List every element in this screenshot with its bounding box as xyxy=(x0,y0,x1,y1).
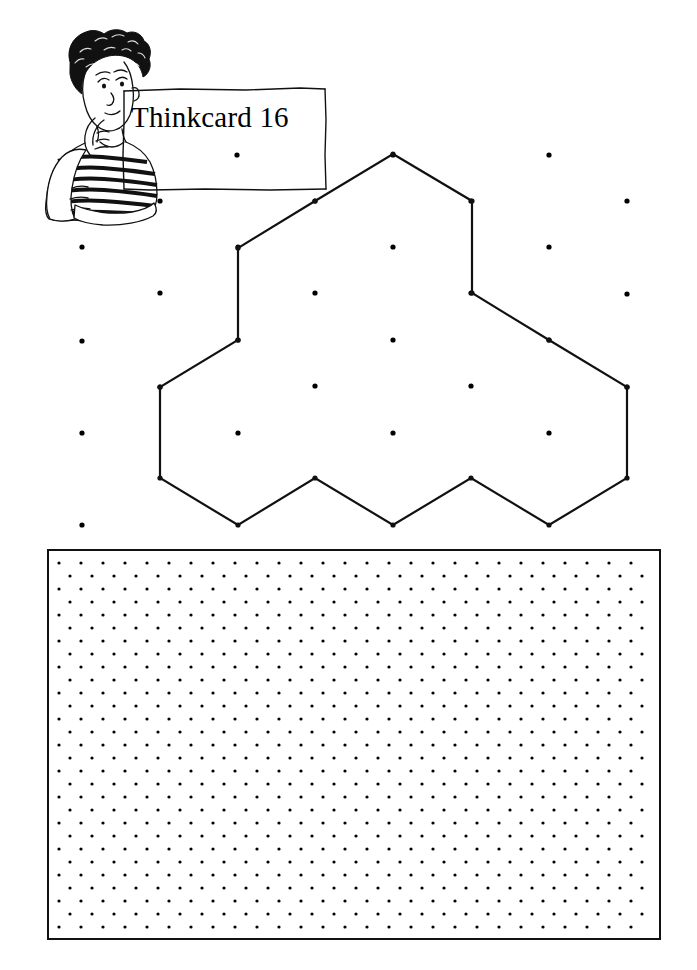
grid-dot xyxy=(618,626,621,629)
grid-dot xyxy=(343,613,346,616)
grid-dot xyxy=(464,912,467,915)
grid-dot xyxy=(431,795,434,798)
grid-dot xyxy=(387,561,390,564)
grid-dot xyxy=(376,626,379,629)
grid-dot xyxy=(497,639,500,642)
grid-dot xyxy=(497,717,500,720)
grid-dot xyxy=(310,782,313,785)
grid-dot xyxy=(519,639,522,642)
grid-dot xyxy=(640,912,643,915)
grid-dot xyxy=(574,912,577,915)
grid-dot xyxy=(134,782,137,785)
vertex-dot xyxy=(157,384,162,389)
grid-dot xyxy=(508,860,511,863)
grid-dot xyxy=(409,691,412,694)
grid-dot xyxy=(574,886,577,889)
grid-dot xyxy=(541,587,544,590)
grid-dot xyxy=(607,561,610,564)
grid-dot xyxy=(156,782,159,785)
grid-dot xyxy=(552,912,555,915)
grid-dot xyxy=(299,821,302,824)
grid-dot xyxy=(519,561,522,564)
grid-dot xyxy=(563,613,566,616)
grid-dot xyxy=(200,652,203,655)
grid-dot xyxy=(530,756,533,759)
grid-dot xyxy=(508,626,511,629)
grid-dot xyxy=(57,639,60,642)
grid-dot xyxy=(387,665,390,668)
grid-dot xyxy=(255,587,258,590)
grid-dot xyxy=(453,743,456,746)
grid-dot xyxy=(145,717,148,720)
grid-dot xyxy=(288,652,291,655)
grid-dot xyxy=(552,834,555,837)
grid-dot xyxy=(519,795,522,798)
grid-dot xyxy=(178,756,181,759)
grid-dot xyxy=(167,561,170,564)
grid-dot xyxy=(277,769,280,772)
grid-dot xyxy=(574,704,577,707)
grid-dot xyxy=(90,886,93,889)
grid-dot xyxy=(112,704,115,707)
grid-dot xyxy=(244,678,247,681)
vertex-dot xyxy=(235,245,240,250)
grid-dot xyxy=(321,717,324,720)
grid-dot xyxy=(310,704,313,707)
grid-dot xyxy=(398,808,401,811)
grid-dot xyxy=(101,717,104,720)
grid-dot xyxy=(145,743,148,746)
grid-dot xyxy=(277,717,280,720)
grid-dot xyxy=(563,639,566,642)
grid-dot xyxy=(574,756,577,759)
grid-dot xyxy=(409,873,412,876)
grid-dot xyxy=(178,912,181,915)
grid-dot xyxy=(68,600,71,603)
grid-dot xyxy=(112,730,115,733)
grid-dot xyxy=(475,639,478,642)
tri-hexagon-vertex-dots xyxy=(157,151,629,527)
grid-dot xyxy=(475,717,478,720)
grid-dot xyxy=(321,613,324,616)
grid-dot xyxy=(387,639,390,642)
grid-dot xyxy=(167,769,170,772)
grid-dot xyxy=(101,561,104,564)
grid-dot xyxy=(211,587,214,590)
grid-dot xyxy=(596,600,599,603)
grid-dot xyxy=(387,795,390,798)
grid-dot xyxy=(398,886,401,889)
grid-dot xyxy=(409,665,412,668)
grid-dot xyxy=(321,665,324,668)
grid-dot xyxy=(200,626,203,629)
grid-dot xyxy=(266,626,269,629)
grid-dot xyxy=(453,821,456,824)
grid-dot xyxy=(288,600,291,603)
grid-dot xyxy=(90,756,93,759)
grid-dot xyxy=(552,756,555,759)
grid-dot xyxy=(244,704,247,707)
grid-dot xyxy=(79,847,82,850)
grid-dot xyxy=(420,782,423,785)
grid-dot xyxy=(277,743,280,746)
grid-dot xyxy=(90,678,93,681)
grid-dot xyxy=(299,847,302,850)
isometric-dot-grid-panel[interactable] xyxy=(47,549,661,940)
grid-dot xyxy=(640,860,643,863)
grid-dot xyxy=(79,795,82,798)
grid-dot xyxy=(299,873,302,876)
grid-dot xyxy=(299,561,302,564)
grid-dot xyxy=(629,691,632,694)
grid-dot xyxy=(409,561,412,564)
grid-dot xyxy=(563,873,566,876)
grid-dot xyxy=(233,665,236,668)
grid-dot xyxy=(596,860,599,863)
grid-dot xyxy=(618,756,621,759)
grid-dot xyxy=(431,899,434,902)
grid-dot xyxy=(123,769,126,772)
grid-dot xyxy=(519,873,522,876)
grid-dot xyxy=(640,730,643,733)
grid-dot xyxy=(211,821,214,824)
grid-dot xyxy=(497,743,500,746)
grid-dot xyxy=(266,756,269,759)
grid-dot xyxy=(343,561,346,564)
grid-dot xyxy=(607,613,610,616)
